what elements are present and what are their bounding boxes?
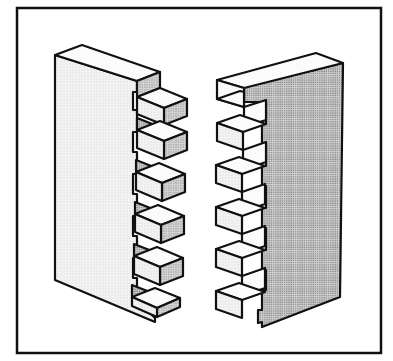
- left-board: [55, 45, 187, 322]
- left-finger: [137, 88, 187, 125]
- left-finger: [137, 121, 187, 159]
- left-finger: [135, 205, 184, 243]
- left-finger: [134, 247, 183, 285]
- right-board: [216, 53, 343, 327]
- left-finger: [136, 163, 185, 201]
- finger-joint-diagram: [0, 0, 393, 361]
